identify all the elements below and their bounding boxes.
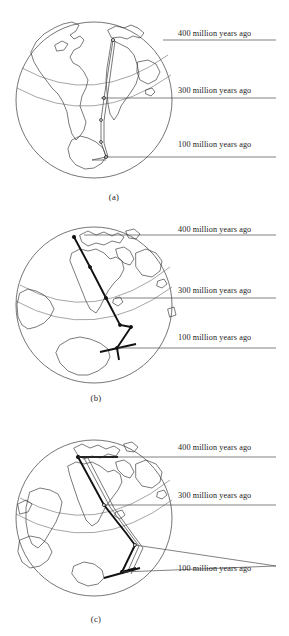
apw-line-a-inner [104,41,115,157]
panel-a: 400 million years ago 300 million years … [0,0,289,212]
inner-detail-a1 [55,41,68,51]
era-label-c-400: 400 million years ago [178,443,251,452]
australia-outline-a [137,60,160,84]
coastlines-c [18,442,167,586]
globe-outline-a [16,22,172,178]
apw-node-a-mid [100,119,103,122]
island-outline-c [157,490,167,499]
globe-c [16,440,172,596]
latitude-line-a [22,55,168,85]
latitude-line-c [20,480,170,515]
island-outline-a [146,88,155,96]
madagascar-outline-b [113,297,123,306]
era-label-a-100: 100 million years ago [178,140,251,149]
era-label-b-400: 400 million years ago [178,225,251,234]
panel-caption-a: (a) [109,192,120,202]
apw-node-b-400 [72,235,75,238]
latitude-line-b [20,267,170,302]
globe-b [16,227,172,383]
era-label-c-300: 300 million years ago [178,491,251,500]
south-america-outline-c [26,488,62,548]
globe-outline-c [16,440,172,596]
coastlines-b [17,229,176,375]
era-label-b-100: 100 million years ago [178,333,251,342]
leader-c-100-upper [135,545,276,566]
apw-line-b [74,237,131,360]
island-outline-b [157,279,167,288]
panel-c: 400 million years ago 300 million years … [0,400,289,636]
apw-node-b-kink [129,325,132,328]
panel-c-canvas: 400 million years ago 300 million years … [0,400,289,636]
era-label-a-400: 400 million years ago [178,29,251,38]
equator-line-a [17,75,171,106]
apw-node-b-mid1 [89,266,92,269]
apw-node-b-300 [104,296,107,299]
panel-a-canvas: 400 million years ago 300 million years … [0,0,289,212]
apw-line-c-left [78,457,135,572]
era-label-a-300: 300 million years ago [178,86,251,95]
era-label-c-100: 100 million years ago [178,564,251,573]
coastlines-a [31,22,160,169]
europe-outline-b [80,231,124,246]
equator-line-b [16,287,172,320]
annotations-a: 400 million years ago 300 million years … [101,29,276,157]
globe-outline-b [16,227,172,383]
southwest-landmass-c [18,536,52,568]
panel-b: 400 million years ago 300 million years … [0,205,289,405]
south-america-outline-b [17,289,54,329]
globe-a [16,22,172,178]
europe-outline-a [108,25,144,39]
antarctica-outline-b [56,337,110,375]
annotations-b: 400 million years ago 300 million years … [84,225,276,348]
figure-root: 400 million years ago 300 million years … [0,0,289,636]
apw-node-a-400 [112,39,115,42]
panel-caption-c: (c) [91,614,102,624]
americas-outline-a [31,22,88,140]
antarctica-outline-c [72,562,104,586]
arabia-outline-b [116,247,134,265]
arabia-outline-c [116,460,134,478]
apw-node-b-mid2 [119,324,122,327]
panel-b-canvas: 400 million years ago 300 million years … [0,205,289,405]
apw-node-a-mid2 [100,141,103,144]
era-label-b-300: 300 million years ago [178,286,251,295]
apw-track-b [72,235,136,360]
asia-outline-b [136,249,162,277]
west-detail-c [18,500,32,514]
annotations-c: 400 million years ago 300 million years … [78,443,276,573]
